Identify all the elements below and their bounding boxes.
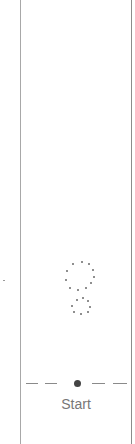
start-label: Start	[20, 396, 132, 412]
start-marker-dot[interactable]	[74, 380, 81, 387]
dash-right-2	[113, 383, 127, 384]
dash-right-1	[92, 383, 105, 384]
dash-left-1	[26, 383, 38, 384]
loading-dots-icon	[0, 0, 135, 444]
dash-left-2	[45, 383, 57, 384]
